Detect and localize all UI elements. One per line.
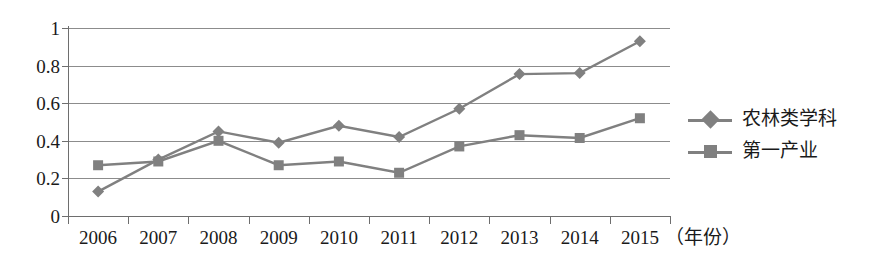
x-axis-title: （年份） — [665, 228, 741, 247]
data-point-square — [153, 156, 163, 166]
x-tick — [610, 216, 611, 224]
y-tick-label: 0.4 — [36, 132, 60, 151]
x-tick-label: 2013 — [489, 228, 549, 247]
y-tick-label: 0.6 — [36, 94, 60, 113]
data-point-square — [454, 141, 464, 151]
data-point-square — [515, 130, 525, 140]
y-tick-label: 1 — [51, 19, 61, 38]
x-tick — [369, 216, 370, 224]
data-point-square — [93, 160, 103, 170]
y-axis-line — [68, 26, 69, 218]
data-point-square — [334, 156, 344, 166]
x-tick-label: 2014 — [550, 228, 610, 247]
series-layer — [68, 28, 670, 216]
diamond-marker-icon — [701, 110, 719, 128]
legend-label: 农林类学科 — [742, 106, 837, 132]
x-tick — [249, 216, 250, 224]
series-line-2 — [98, 118, 640, 173]
y-tick — [62, 141, 69, 142]
x-tick — [429, 216, 430, 224]
x-tick — [68, 216, 69, 224]
line-chart: 00.20.40.60.81 2006200720082009201020112… — [0, 0, 869, 279]
data-point-diamond — [213, 125, 225, 137]
y-tick-label: 0 — [51, 207, 61, 226]
x-tick — [670, 216, 671, 224]
x-tick-label: 2015 — [610, 228, 670, 247]
data-point-diamond — [273, 137, 285, 149]
data-point-square — [575, 133, 585, 143]
data-point-diamond — [453, 103, 465, 115]
data-point-diamond — [574, 67, 586, 79]
data-point-square — [214, 136, 224, 146]
y-tick — [62, 103, 69, 104]
x-tick-label: 2011 — [369, 228, 429, 247]
plot-area — [68, 28, 670, 216]
x-tick-label: 2006 — [68, 228, 128, 247]
y-tick — [62, 66, 69, 67]
x-tick-label: 2008 — [188, 228, 248, 247]
y-tick-label: 0.8 — [36, 57, 60, 76]
square-marker-icon — [704, 145, 717, 158]
data-point-diamond — [393, 131, 405, 143]
data-point-square — [635, 113, 645, 123]
y-tick-label: 0.2 — [36, 169, 60, 188]
legend-label: 第一产业 — [742, 138, 818, 164]
series-line-1 — [98, 41, 640, 191]
data-point-diamond — [514, 68, 526, 80]
data-point-square — [394, 168, 404, 178]
x-tick — [489, 216, 490, 224]
data-point-diamond — [634, 35, 646, 47]
x-tick — [550, 216, 551, 224]
x-tick-label: 2012 — [429, 228, 489, 247]
y-tick — [62, 28, 69, 29]
x-tick-label: 2010 — [309, 228, 369, 247]
y-tick — [62, 178, 69, 179]
x-tick-label: 2007 — [128, 228, 188, 247]
x-tick-label: 2009 — [249, 228, 309, 247]
data-point-square — [274, 160, 284, 170]
data-point-diamond — [333, 120, 345, 132]
data-point-diamond — [92, 186, 104, 198]
x-tick — [128, 216, 129, 224]
x-tick — [309, 216, 310, 224]
x-tick — [188, 216, 189, 224]
y-axis-labels: 00.20.40.60.81 — [0, 0, 60, 279]
